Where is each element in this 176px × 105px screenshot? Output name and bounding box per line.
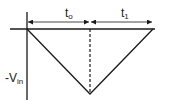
waveform-diagram: to t1 -Vin — [0, 0, 176, 105]
t1-label: t1 — [121, 6, 129, 21]
t0-label: to — [65, 6, 73, 21]
neg-vin-label: -Vin — [5, 71, 23, 86]
